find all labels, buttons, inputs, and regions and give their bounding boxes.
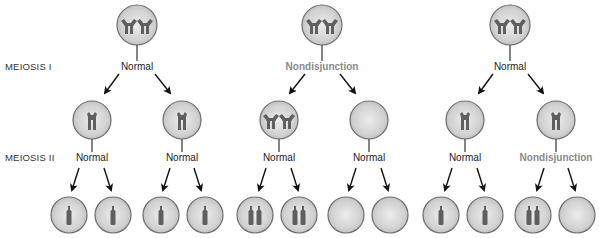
diagram-canvas — [0, 0, 599, 238]
parent-cell-1 — [117, 5, 157, 45]
meiosis-1-daughter-cell — [260, 101, 298, 139]
gamete-cell-disomic — [515, 197, 551, 233]
outcome-label-nondisjunction: Nondisjunction — [286, 61, 359, 72]
meiosis-1-daughter-cell — [73, 101, 111, 139]
arrow — [290, 74, 305, 93]
arrow — [537, 168, 544, 190]
arrow — [105, 74, 119, 93]
arrow — [568, 168, 575, 190]
meiosis-1-daughter-cell — [537, 101, 575, 139]
stage-label-meiosis-2: MEIOSIS II — [5, 152, 55, 163]
gamete-cell — [95, 197, 131, 233]
arrow — [479, 74, 493, 93]
arrow — [528, 74, 543, 93]
outcome-label: Normal — [449, 152, 481, 163]
arrow — [72, 168, 79, 190]
gamete-cell — [423, 197, 459, 233]
arrow — [477, 168, 484, 190]
gamete-cell — [467, 197, 503, 233]
outcome-label: Normal — [263, 152, 295, 163]
arrow — [163, 168, 170, 190]
gamete-cell — [51, 197, 87, 233]
gamete-cell — [187, 197, 223, 233]
gamete-cell-disomic — [237, 197, 273, 233]
outcome-label: Normal — [76, 152, 108, 163]
parent-cell-2 — [302, 5, 342, 45]
arrow — [291, 168, 298, 190]
outcome-label: Normal — [353, 152, 385, 163]
gamete-cell-disomic — [281, 197, 317, 233]
arrow — [155, 74, 170, 93]
parent-cell-3 — [490, 5, 530, 45]
meiosis-nondisjunction-diagram: MEIOSIS I MEIOSIS II Normal Nondisjuncti… — [0, 0, 599, 238]
outcome-label: Normal — [494, 61, 526, 72]
gamete-cell-nullisomic — [372, 197, 408, 233]
outcome-label: Normal — [166, 152, 198, 163]
meiosis-1-daughter-cell — [163, 101, 201, 139]
outcome-label-nondisjunction: Nondisjunction — [520, 152, 593, 163]
gamete-cell — [143, 197, 179, 233]
arrow — [349, 168, 356, 190]
arrow — [104, 168, 111, 190]
meiosis-1-daughter-cell — [446, 101, 484, 139]
gamete-cell-nullisomic — [328, 197, 364, 233]
arrow — [194, 168, 201, 190]
arrow — [445, 168, 452, 190]
arrow — [381, 168, 388, 190]
outcome-label: Normal — [121, 61, 153, 72]
stage-label-meiosis-1: MEIOSIS I — [5, 61, 52, 72]
arrow — [340, 74, 355, 93]
meiosis-1-daughter-cell-empty — [350, 101, 388, 139]
arrow — [259, 168, 266, 190]
gamete-cell-nullisomic — [559, 197, 595, 233]
